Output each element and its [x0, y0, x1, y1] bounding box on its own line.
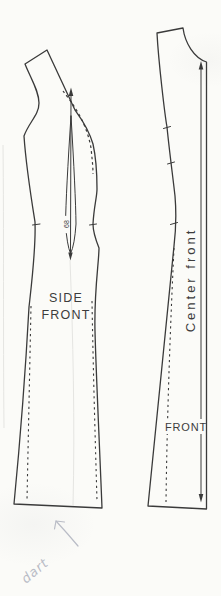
side-front-label-line2: FRONT	[41, 308, 90, 322]
handwritten-dart-note: dart	[18, 555, 51, 586]
center-front-label: Center front	[183, 228, 198, 333]
handwritten-arrow	[56, 521, 78, 546]
pattern-diagram: 68 SIDE FRONT Center front FRONT dart	[0, 0, 221, 596]
grainline-arrowhead-up	[69, 88, 74, 97]
notch-tick	[33, 224, 41, 225]
side-front-outline	[14, 50, 102, 508]
grainline-arrowhead-up	[199, 61, 204, 70]
dart-right-leg	[71, 116, 76, 253]
grainline-arrowhead-down	[68, 253, 72, 261]
pattern-sheet: 68 SIDE FRONT Center front FRONT dart	[0, 0, 221, 596]
notch-tick	[90, 224, 97, 225]
front-label: FRONT	[165, 421, 207, 433]
paper-crease	[3, 145, 4, 428]
side-front-label-line1: SIDE	[49, 291, 83, 305]
dart-number-label: 68	[63, 220, 70, 228]
notch-tick	[171, 223, 178, 225]
grainline-arrowhead-down	[199, 494, 204, 503]
